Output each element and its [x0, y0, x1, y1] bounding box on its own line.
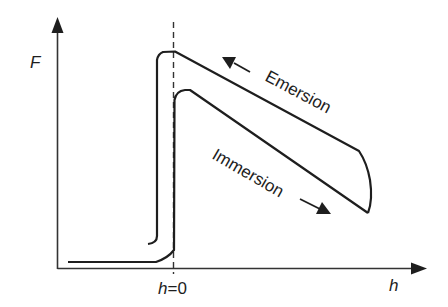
- emersion-curve: [148, 52, 371, 245]
- h-zero-var: h: [158, 279, 167, 298]
- emersion-label: Emersion: [262, 67, 334, 117]
- y-axis: [52, 17, 64, 269]
- x-axis: [58, 263, 428, 275]
- x-axis-label: h: [389, 276, 398, 295]
- emersion-arrowhead-icon: [222, 57, 236, 69]
- y-axis-label: F: [30, 53, 42, 72]
- immersion-label: Immersion: [209, 145, 287, 201]
- force-vs-depth-diagram: F h h=0 Emersion Immersion: [0, 0, 448, 307]
- immersion-arrow: [300, 199, 331, 214]
- h-zero-eq: =0: [167, 279, 186, 298]
- emersion-arrow: [222, 57, 250, 72]
- y-axis-arrow-icon: [52, 17, 64, 33]
- h-zero-tick-label: h=0: [158, 279, 187, 298]
- x-axis-arrow-icon: [411, 263, 427, 275]
